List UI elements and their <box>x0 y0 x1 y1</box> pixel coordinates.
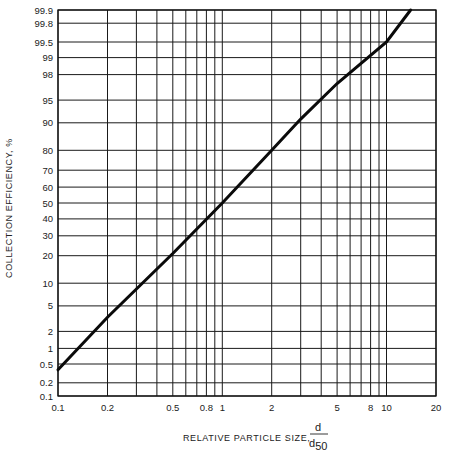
x-axis-fraction-denominator: d50 <box>309 437 327 452</box>
y-tick-label: 0.1 <box>40 391 53 402</box>
y-tick-label: 60 <box>42 182 53 193</box>
x-tick-label: 8 <box>368 402 373 413</box>
x-tick-label: 10 <box>381 402 392 413</box>
y-tick-label: 5 <box>48 300 53 311</box>
y-tick-label: 30 <box>42 230 53 241</box>
y-tick-label: 2 <box>48 326 53 337</box>
y-tick-label: 80 <box>42 145 53 156</box>
x-tick-label: 0.8 <box>200 402 213 413</box>
y-tick-label: 50 <box>42 198 53 209</box>
x-tick-label: 0.1 <box>51 402 64 413</box>
x-axis-title: RELATIVE PARTICLE SIZE, <box>183 433 310 443</box>
x-tick-label: 0.2 <box>101 402 114 413</box>
efficiency-chart: 0.10.20.50.812581020 0.10.20.51251020304… <box>0 0 451 456</box>
x-tick-labels: 0.10.20.50.812581020 <box>51 402 441 413</box>
y-tick-labels: 0.10.20.512510203040506070809095989999.5… <box>35 5 54 402</box>
y-tick-label: 95 <box>42 95 53 106</box>
x-tick-label: 0.5 <box>166 402 179 413</box>
x-tick-label: 5 <box>334 402 339 413</box>
y-tick-label: 99.5 <box>35 37 54 48</box>
y-tick-label: 20 <box>42 250 53 261</box>
y-tick-label: 1 <box>48 343 53 354</box>
fraction-den-sub: 50 <box>315 440 327 452</box>
y-tick-label: 90 <box>42 117 53 128</box>
x-tick-label: 2 <box>269 402 274 413</box>
y-tick-label: 10 <box>42 278 53 289</box>
x-tick-label: 20 <box>431 402 442 413</box>
efficiency-curve <box>58 10 411 370</box>
x-tick-label: 1 <box>220 402 225 413</box>
y-tick-label: 40 <box>42 213 53 224</box>
y-tick-label: 0.5 <box>40 359 53 370</box>
y-axis-title: COLLECTION EFFICIENCY, % <box>4 138 14 278</box>
y-tick-label: 99.9 <box>35 5 54 16</box>
y-tick-label: 0.2 <box>40 377 53 388</box>
x-axis-fraction-numerator: d <box>315 421 321 433</box>
y-tick-label: 98 <box>42 69 53 80</box>
y-tick-label: 99.8 <box>35 18 54 29</box>
y-tick-label: 99 <box>42 52 53 63</box>
y-tick-label: 70 <box>42 165 53 176</box>
